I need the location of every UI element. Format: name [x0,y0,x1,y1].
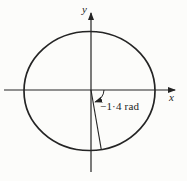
circle-angle-diagram: y x −1·4 rad [0,0,187,181]
y-axis-label: y [81,3,87,15]
x-axis-label: x [168,91,174,103]
angle-label: −1·4 rad [100,100,140,112]
figure-canvas: y x −1·4 rad [0,0,187,181]
